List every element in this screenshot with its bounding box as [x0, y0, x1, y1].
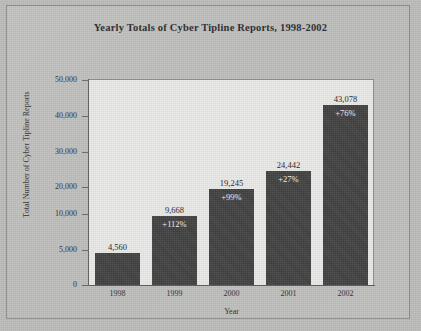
y-tick-5000 [82, 250, 89, 251]
y-tick-label-40000: 40,000 [55, 111, 77, 120]
bar-value-label-2000: 19,245 [203, 178, 260, 188]
x-tick-label-2000: 2000 [203, 289, 260, 298]
bar-2001[interactable] [266, 171, 311, 285]
x-axis-line [88, 285, 375, 286]
chart-title: Yearly Totals of Cyber Tipline Reports, … [0, 22, 421, 33]
bar-value-label-2002: 43,078 [317, 94, 374, 104]
y-tick-label-10000: 10,000 [55, 209, 77, 218]
x-tick-label-1998: 1998 [89, 289, 146, 298]
y-tick-10000 [82, 214, 89, 215]
bar-value-label-1998: 4,560 [89, 242, 146, 252]
bar-percent-label-2000: +99% [203, 192, 260, 202]
y-tick-0 [82, 285, 89, 286]
y-tick-label-50000: 50,000 [55, 75, 77, 84]
y-tick-40000 [82, 116, 89, 117]
x-tick-label-2002: 2002 [317, 289, 374, 298]
y-axis-line [88, 79, 89, 286]
y-tick-label-0: 0 [73, 280, 77, 289]
y-tick-label-30000: 30,000 [55, 147, 77, 156]
y-tick-50000 [82, 80, 89, 81]
y-tick-30000 [82, 152, 89, 153]
bar-percent-label-2001: +27% [260, 174, 317, 184]
bar-percent-label-2002: +76% [317, 108, 374, 118]
bar-1998[interactable] [95, 253, 140, 285]
bar-2002[interactable] [323, 105, 368, 285]
bar-value-label-1999: 9,668 [146, 205, 203, 215]
bar-value-label-2001: 24,442 [260, 160, 317, 170]
chart-page: Yearly Totals of Cyber Tipline Reports, … [0, 0, 421, 331]
y-axis-title: Total Number of Cyber Tipline Reports [22, 85, 31, 225]
y-tick-label-5000: 5,000 [59, 245, 77, 254]
y-tick-20000 [82, 187, 89, 188]
bar-percent-label-1999: +112% [146, 219, 203, 229]
x-tick-label-2001: 2001 [260, 289, 317, 298]
x-tick-label-1999: 1999 [146, 289, 203, 298]
x-axis-title: Year [89, 307, 374, 316]
y-tick-label-20000: 20,000 [55, 182, 77, 191]
bar-2000[interactable] [209, 189, 254, 285]
